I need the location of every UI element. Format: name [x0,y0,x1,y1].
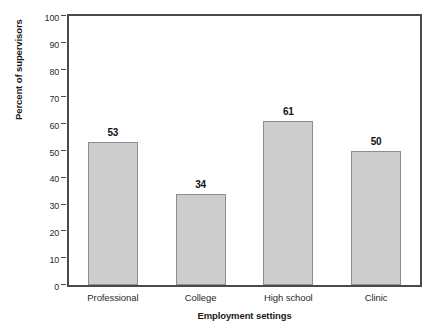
y-axis-tick-mark [61,42,66,43]
bar [263,121,313,285]
y-axis-tick-label: 20 [49,228,59,238]
bar-value-label: 34 [171,179,231,190]
plot-frame [67,14,422,287]
y-axis-tick-label: 30 [49,201,59,211]
y-axis-tick-mark [61,230,66,231]
y-axis-tick-mark [61,257,66,258]
y-axis-tick-mark [61,204,66,205]
x-axis-category-label: College [151,292,251,303]
bar [88,142,138,285]
bar-chart: Percent of supervisors 01020304050607080… [0,0,441,333]
y-axis-tick: 60 [49,118,67,130]
y-axis-tick-label: 40 [49,174,59,184]
y-axis-tick-mark [61,150,66,151]
y-axis-tick-label: 70 [49,94,59,104]
plot-area [69,16,420,285]
y-axis-tick-mark [61,284,66,285]
y-axis-tick-mark [61,69,66,70]
x-axis-title: Employment settings [67,310,422,321]
y-axis-tick: 20 [49,225,67,237]
y-axis-tick: 70 [49,91,67,103]
y-axis-tick: 0 [54,279,67,291]
y-axis-tick-mark [61,15,66,16]
y-axis-ticks: 0102030405060708090100 [0,0,67,333]
y-axis-tick-label: 0 [54,282,59,292]
x-axis-category-label: Clinic [326,292,426,303]
y-axis-tick: 100 [45,10,67,22]
y-axis-tick: 10 [49,252,67,264]
y-axis-tick-mark [61,96,66,97]
y-axis-tick: 30 [49,198,67,210]
bar-value-label: 50 [346,136,406,147]
y-axis-tick-mark [61,177,66,178]
bar [351,151,401,286]
y-axis-tick-label: 100 [45,13,59,23]
bar-value-label: 53 [83,127,143,138]
y-axis-tick: 40 [49,171,67,183]
bar [176,194,226,285]
y-axis-tick: 90 [49,37,67,49]
y-axis-tick-mark [61,123,66,124]
y-axis-tick-label: 10 [49,255,59,265]
x-axis-category-label: High school [238,292,338,303]
x-axis-category-label: Professional [63,292,163,303]
bar-value-label: 61 [258,106,318,117]
y-axis-tick-label: 80 [49,67,59,77]
y-axis-tick: 80 [49,64,67,76]
y-axis-tick: 50 [49,145,67,157]
y-axis-tick-label: 50 [49,148,59,158]
y-axis-tick-label: 90 [49,40,59,50]
y-axis-tick-label: 60 [49,121,59,131]
